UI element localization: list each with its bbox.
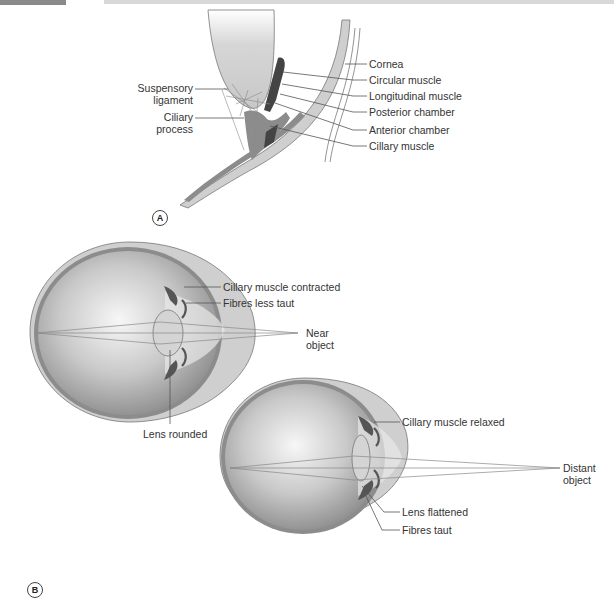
label-near-object: Near object: [306, 327, 334, 351]
label-line: Distant: [563, 462, 596, 474]
label-posterior-chamber: Posterior chamber: [369, 106, 455, 118]
label-anterior-chamber: Anterior chamber: [369, 124, 450, 136]
label-suspensory-ligament: Suspensory ligament: [118, 82, 193, 106]
label-longitudinal-muscle: Longitudinal muscle: [369, 90, 462, 102]
distant-eye-diagram: [220, 378, 560, 534]
label-lens-flattened: Lens flattened: [402, 506, 468, 518]
label-line: Suspensory: [118, 82, 193, 94]
panel-b-badge: B: [27, 582, 43, 598]
label-lens-rounded: Lens rounded: [143, 428, 207, 440]
eye-accommodation-diagram: [0, 0, 614, 606]
label-fibres-taut: Fibres taut: [402, 524, 452, 536]
label-cornea: Cornea: [369, 58, 403, 70]
label-line: process: [118, 123, 193, 135]
label-cillary-muscle-contracted: Cillary muscle contracted: [223, 281, 340, 293]
label-line: Near: [306, 327, 334, 339]
label-line: object: [306, 339, 334, 351]
label-ciliary-process: Ciliary process: [118, 111, 193, 135]
panel-a-badge: A: [152, 210, 168, 226]
label-line: object: [563, 474, 596, 486]
label-fibres-less-taut: Fibres less taut: [223, 297, 294, 309]
label-line: Ciliary: [118, 111, 193, 123]
panel-a-ciliary-detail: [180, 10, 367, 208]
label-distant-object: Distant object: [563, 462, 596, 486]
label-cillary-muscle-relaxed: Cillary muscle relaxed: [402, 416, 505, 428]
label-circular-muscle: Circular muscle: [369, 74, 441, 86]
label-cillary-muscle: Cillary muscle: [369, 140, 434, 152]
label-line: ligament: [118, 94, 193, 106]
